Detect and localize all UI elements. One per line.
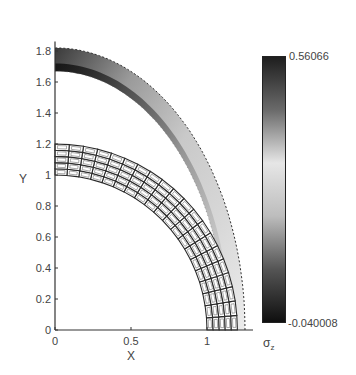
colorbar-title: σz [263, 336, 274, 352]
y-tick-label: 1.6 [36, 76, 51, 88]
mesh-cell [213, 317, 220, 330]
mesh-cell [55, 144, 69, 151]
y-tick-label: 0.6 [36, 231, 51, 243]
colorbar-min-label: -0.040008 [288, 317, 338, 329]
mesh-cell [55, 169, 67, 176]
mesh-cell [69, 145, 84, 153]
colorbar-max-label: 0.56066 [289, 50, 329, 62]
colorbar [262, 56, 286, 323]
x-tick-label: 1 [204, 335, 210, 347]
x-tick-label: 0 [52, 335, 58, 347]
y-tick-label: 1.4 [36, 107, 51, 119]
y-tick-label: 1 [45, 169, 51, 181]
y-axis-label: Y [19, 172, 27, 186]
y-tick-label: 1.2 [36, 138, 51, 150]
mesh-cell [55, 163, 68, 170]
mesh-cell [229, 301, 237, 316]
mesh-cell [231, 315, 238, 330]
mesh-cell [55, 156, 68, 163]
y-tick-label: 1.8 [36, 45, 51, 57]
x-tick-label: 0.5 [123, 335, 138, 347]
y-tick-label: 0 [45, 324, 51, 336]
mesh-cell [225, 316, 232, 330]
y-tick-label: 0.8 [36, 200, 51, 212]
y-tick-label: 0.2 [36, 293, 51, 305]
x-axis-label: X [127, 349, 135, 363]
y-tick-label: 0.4 [36, 262, 51, 274]
